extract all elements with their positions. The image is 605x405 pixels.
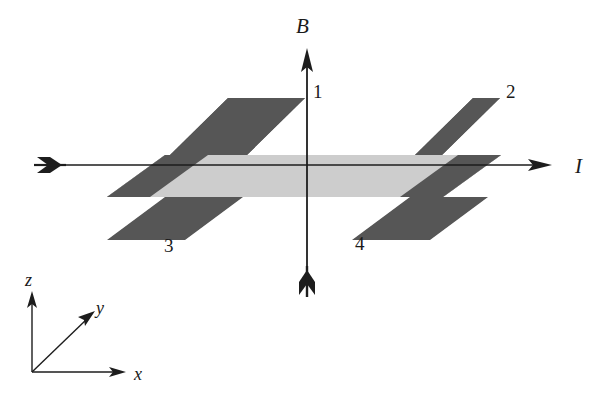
figure-canvas: B I 1 2 3 4 z y x xyxy=(0,0,605,405)
contact-label-2: 2 xyxy=(506,81,516,102)
hall-effect-diagram: B I 1 2 3 4 z y x xyxy=(0,0,605,405)
contact-strip-1-foreground xyxy=(170,98,305,155)
contact-label-1: 1 xyxy=(313,81,323,102)
contact-label-4: 4 xyxy=(355,233,365,254)
axis-label-z: z xyxy=(24,270,32,290)
current-label: I xyxy=(574,154,583,178)
axis-y-arrowhead xyxy=(78,311,95,326)
contact-strip-3-foreground xyxy=(107,197,242,240)
axis-label-y: y xyxy=(94,298,104,318)
contact-strip-4-foreground xyxy=(352,197,487,240)
axis-y-shaft xyxy=(32,318,88,372)
current-fletching-icon xyxy=(34,157,66,173)
contact-strip-2-foreground xyxy=(415,98,500,155)
coordinate-axes-group xyxy=(27,291,126,377)
magnetic-field-label: B xyxy=(296,14,309,38)
contact-label-3: 3 xyxy=(164,235,174,256)
axis-label-x: x xyxy=(133,364,142,384)
magnetic-field-fletching-icon xyxy=(299,266,315,297)
